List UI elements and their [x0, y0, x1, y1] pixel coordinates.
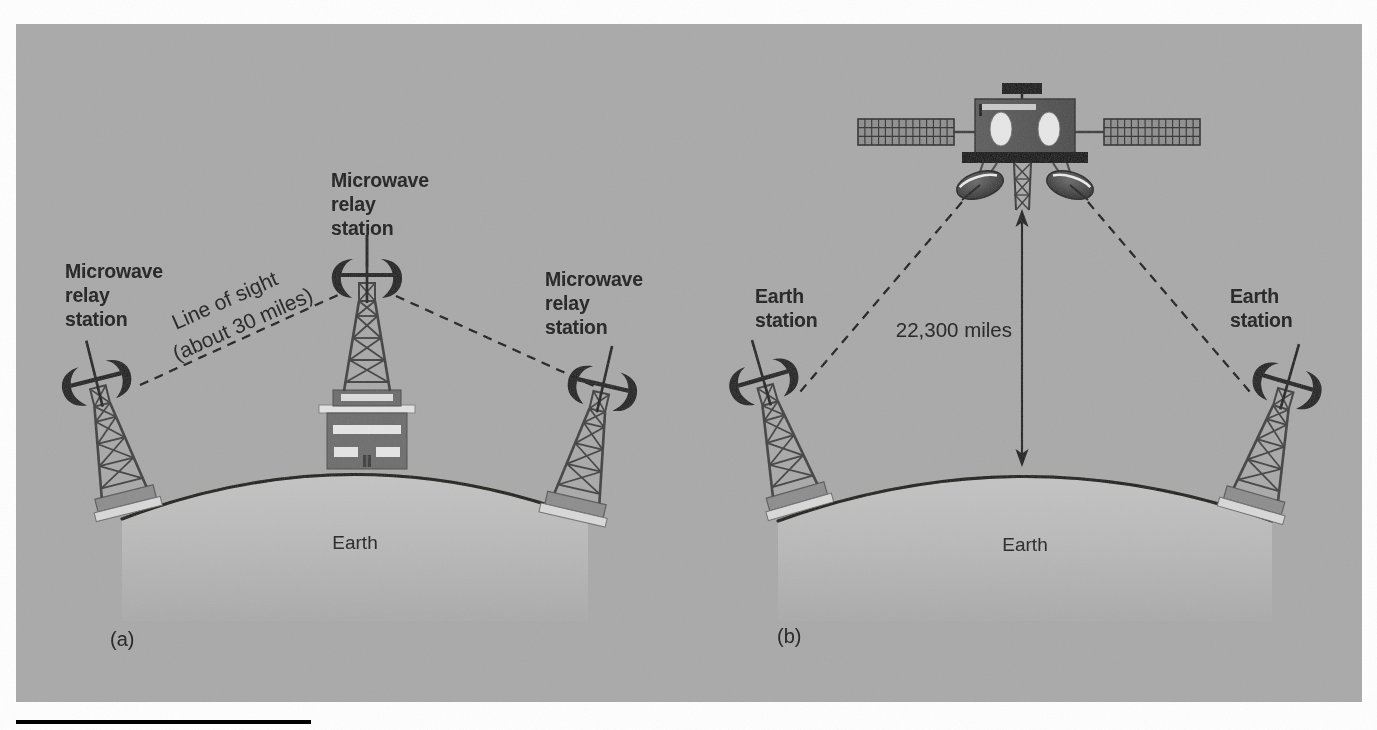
orbit-distance-label: 22,300 miles	[896, 318, 1012, 341]
satellite-body-edge	[979, 104, 982, 116]
earth-label-a: Earth	[332, 532, 377, 553]
figure-panel: Earth Microwave relay station	[16, 24, 1362, 702]
relay-left-a-line1: Microwave	[65, 260, 163, 282]
earth-station-left-line2: station	[755, 309, 818, 331]
earth-station-right-line2: station	[1230, 309, 1293, 331]
figure-container: Earth Microwave relay station	[0, 0, 1377, 730]
earth-label-b: Earth	[1002, 534, 1047, 555]
satellite-window-left	[990, 112, 1012, 146]
solar-panel-icon-left	[858, 119, 954, 145]
relay-left-a-line2: relay	[65, 284, 110, 306]
satellite-base-bar	[962, 152, 1088, 163]
panel-a-caption: (a)	[110, 628, 134, 650]
relay-center-a-line2: relay	[331, 193, 376, 215]
satellite-window-right	[1038, 112, 1060, 146]
relay-center-a-line3: station	[331, 217, 394, 239]
satellite-top-antenna	[1002, 83, 1042, 94]
relay-right-a-line3: station	[545, 316, 608, 338]
communications-diagram: Earth Microwave relay station	[0, 0, 1377, 730]
relay-right-a-line1: Microwave	[545, 268, 643, 290]
earth-station-right-line1: Earth	[1230, 285, 1279, 307]
bottom-rule	[16, 720, 311, 724]
relay-right-a-line2: relay	[545, 292, 590, 314]
satellite-body-strip	[981, 104, 1036, 110]
solar-panel-icon-right	[1104, 119, 1200, 145]
panel-b-caption: (b)	[777, 625, 801, 647]
relay-left-a-line3: station	[65, 308, 128, 330]
relay-center-a-line1: Microwave	[331, 169, 429, 191]
relay-building-icon-a	[319, 390, 415, 469]
earth-station-left-line1: Earth	[755, 285, 804, 307]
